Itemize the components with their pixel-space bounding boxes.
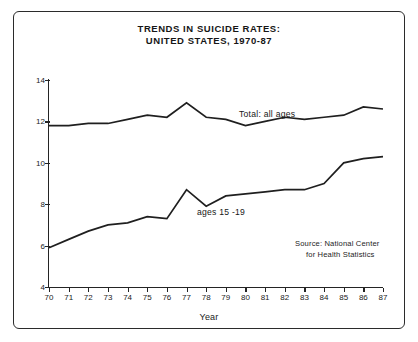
plot-area: 468101214 Total: all ages ages 15 -19 So… <box>49 80 383 287</box>
x-tick-mark-80 <box>245 288 246 292</box>
y-tick-label: 8 <box>41 200 45 209</box>
x-tick-label-80: 80 <box>241 293 250 302</box>
y-tick-label: 4 <box>41 283 45 292</box>
x-tick-mark-83 <box>304 288 305 292</box>
x-tick-label-70: 70 <box>45 293 54 302</box>
x-tick-label-79: 79 <box>221 293 230 302</box>
x-tick-mark-79 <box>226 288 227 292</box>
x-tick-mark-70 <box>49 288 50 292</box>
x-tick-mark-75 <box>147 288 148 292</box>
x-tick-mark-82 <box>285 288 286 292</box>
x-tick-label-82: 82 <box>280 293 289 302</box>
x-tick-mark-81 <box>265 288 266 292</box>
x-tick-mark-74 <box>128 288 129 292</box>
x-tick-label-73: 73 <box>103 293 112 302</box>
x-tick-label-86: 86 <box>359 293 368 302</box>
x-tick-mark-76 <box>167 288 168 292</box>
x-tick-mark-86 <box>363 288 364 292</box>
x-tick-mark-87 <box>383 288 384 292</box>
source-note-line-1: Source: National Center <box>295 238 380 249</box>
series-line-total-all-ages <box>49 103 383 126</box>
x-tick-mark-77 <box>187 288 188 292</box>
x-tick-mark-73 <box>108 288 109 292</box>
x-tick-label-71: 71 <box>64 293 73 302</box>
y-tick-label: 14 <box>36 76 45 85</box>
x-tick-mark-72 <box>88 288 89 292</box>
x-tick-label-81: 81 <box>261 293 270 302</box>
source-note-line-2: for Health Statistics <box>295 249 380 260</box>
x-tick-label-72: 72 <box>84 293 93 302</box>
y-tick-label: 10 <box>36 158 45 167</box>
x-tick-label-87: 87 <box>379 293 388 302</box>
x-tick-label-76: 76 <box>162 293 171 302</box>
series-label-total-all-ages: Total: all ages <box>239 109 295 119</box>
x-tick-mark-85 <box>344 288 345 292</box>
x-tick-label-84: 84 <box>320 293 329 302</box>
y-tick-label: 12 <box>36 117 45 126</box>
source-note: Source: National Center for Health Stati… <box>295 238 380 260</box>
x-tick-label-75: 75 <box>143 293 152 302</box>
x-tick-label-77: 77 <box>182 293 191 302</box>
x-tick-mark-71 <box>69 288 70 292</box>
x-tick-label-74: 74 <box>123 293 132 302</box>
x-axis-ticks: 707172737475767778798081828384858687 <box>48 288 383 308</box>
x-tick-mark-78 <box>206 288 207 292</box>
y-tick-label: 6 <box>41 241 45 250</box>
series-label-ages-15-19: ages 15 -19 <box>197 207 245 217</box>
x-tick-mark-84 <box>324 288 325 292</box>
series-line-ages-15-19 <box>49 157 383 248</box>
x-axis-label: Year <box>0 312 418 322</box>
x-tick-label-78: 78 <box>202 293 211 302</box>
suicide-rates-figure: TRENDS IN SUICIDE RATES: UNITED STATES, … <box>0 0 418 342</box>
x-tick-label-83: 83 <box>300 293 309 302</box>
x-tick-label-85: 85 <box>339 293 348 302</box>
